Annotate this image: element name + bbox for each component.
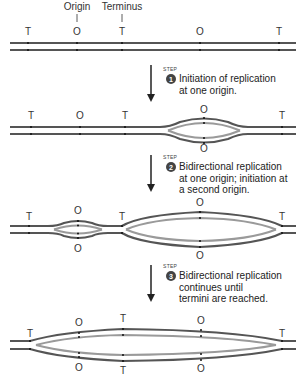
svg-text:T: T (28, 110, 34, 121)
step-3-badge: STEP 3 (163, 263, 178, 281)
step-2-badge: STEP 2 (163, 154, 178, 172)
svg-text:O: O (76, 110, 84, 121)
step-1-caption: Initiation of replication at one origin. (179, 73, 276, 96)
arrow-down-icon (147, 65, 155, 102)
step-2-caption: Bidirectional replication at one origin;… (179, 161, 287, 196)
svg-text:O: O (73, 26, 81, 37)
svg-text:3: 3 (169, 273, 173, 280)
svg-text:O: O (200, 104, 208, 115)
svg-text:T: T (279, 110, 285, 121)
svg-text:O: O (74, 205, 82, 216)
svg-text:T: T (120, 365, 126, 376)
origin-header-label: Origin (64, 1, 91, 12)
svg-text:T: T (120, 313, 126, 324)
svg-text:O: O (200, 143, 208, 154)
stage-1-one-bubble: T O T O O T (10, 104, 296, 154)
arrow-down-icon (147, 155, 155, 192)
step-3-caption: Bidirectional replication continues unti… (179, 270, 282, 305)
svg-text:O: O (197, 363, 205, 374)
svg-text:O: O (197, 315, 205, 326)
stage-2-two-bubbles: T O O T O O T (10, 197, 296, 261)
svg-text:1: 1 (169, 76, 173, 83)
stage-3-full-bubble: T O O T T O O T (10, 313, 296, 376)
stage-0-unreplicated: T O T O T (10, 26, 296, 51)
svg-text:O: O (196, 26, 204, 37)
svg-text:T: T (119, 211, 125, 222)
arrow-down-icon (147, 265, 155, 302)
svg-text:T: T (26, 211, 32, 222)
svg-text:O: O (196, 197, 204, 208)
svg-text:T: T (119, 26, 125, 37)
svg-text:O: O (75, 317, 83, 328)
svg-text:T: T (276, 26, 282, 37)
step-1-badge: STEP 1 (163, 66, 178, 84)
svg-text:O: O (196, 250, 204, 261)
svg-text:O: O (74, 243, 82, 254)
svg-text:STEP: STEP (163, 263, 178, 269)
svg-text:O: O (75, 362, 83, 373)
svg-text:STEP: STEP (163, 154, 178, 160)
svg-text:STEP: STEP (163, 66, 178, 72)
svg-text:T: T (279, 328, 285, 339)
svg-text:T: T (122, 110, 128, 121)
svg-text:T: T (27, 328, 33, 339)
svg-text:T: T (25, 26, 31, 37)
svg-text:2: 2 (169, 164, 173, 171)
terminus-header-label: Terminus (102, 1, 143, 12)
svg-text:T: T (279, 211, 285, 222)
